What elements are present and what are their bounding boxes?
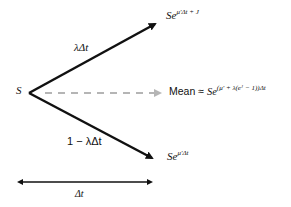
- down-outcome-label: Seμ′Δt: [167, 150, 189, 163]
- mean-prefix: Mean ≈: [169, 85, 207, 97]
- up-outcome-base: Se: [166, 9, 176, 21]
- down-outcome-base: Se: [167, 150, 177, 162]
- time-span-label: Δt: [75, 188, 84, 199]
- up-branch-arrow: [29, 24, 155, 93]
- down-branch-arrow: [29, 93, 152, 158]
- up-outcome-exponent: μ′Δt + J: [176, 8, 198, 16]
- down-outcome-exponent: μ′Δt: [177, 149, 188, 157]
- up-outcome-label: Seμ′Δt + J: [166, 9, 199, 22]
- down-probability-label: 1 − λΔt: [67, 135, 102, 147]
- jump-diffusion-tree-graphic: [0, 0, 291, 207]
- mean-label: Mean ≈ Se(μ′ + λ(eᴶ − 1))Δt: [169, 85, 266, 97]
- mean-outcome-exponent: (μ′ + λ(eᴶ − 1))Δt: [217, 84, 266, 92]
- origin-label: S: [16, 84, 22, 96]
- up-probability-label: λΔt: [74, 41, 88, 53]
- mean-outcome-base: Se: [207, 86, 217, 97]
